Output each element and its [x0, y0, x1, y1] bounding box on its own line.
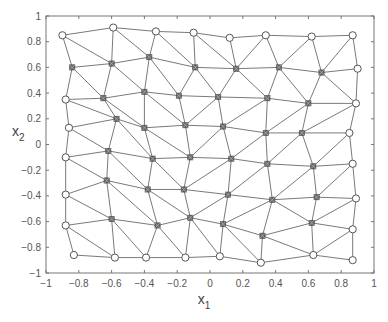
boundary-node-marker — [346, 129, 353, 136]
y-tick-label: −0.2 — [21, 165, 41, 176]
boundary-node-marker — [142, 254, 149, 261]
interior-node-marker — [106, 148, 111, 153]
interior-node-marker — [145, 187, 150, 192]
interior-node-marker — [234, 66, 239, 71]
x-tick-label: 1 — [371, 278, 377, 289]
interior-node-marker — [216, 94, 221, 99]
interior-node-marker — [142, 125, 147, 130]
boundary-node-marker — [349, 32, 356, 39]
boundary-node-marker — [352, 100, 359, 107]
interior-node-marker — [265, 161, 270, 166]
boundary-node-marker — [190, 29, 197, 36]
interior-node-marker — [265, 96, 270, 101]
boundary-node-marker — [262, 32, 269, 39]
y-tick-label: 0 — [35, 139, 41, 150]
interior-node-marker — [299, 130, 304, 135]
interior-node-marker — [176, 93, 181, 98]
interior-node-marker — [319, 70, 324, 75]
y-tick-label: −0.6 — [21, 216, 41, 227]
interior-node-marker — [260, 233, 265, 238]
interior-node-marker — [188, 155, 193, 160]
interior-node-marker — [70, 65, 75, 70]
boundary-node-marker — [62, 154, 69, 161]
interior-node-marker — [150, 156, 155, 161]
interior-node-marker — [263, 130, 268, 135]
interior-node-marker — [183, 123, 188, 128]
boundary-node-marker — [349, 257, 356, 264]
boundary-node-marker — [308, 33, 315, 40]
interior-node-marker — [104, 178, 109, 183]
x-tick-label: 0.8 — [334, 278, 348, 289]
y-tick-label: −1 — [30, 268, 42, 279]
boundary-node-marker — [152, 28, 159, 35]
boundary-node-marker — [182, 254, 189, 261]
interior-node-marker — [276, 65, 281, 70]
x-tick-label: 0.2 — [236, 278, 250, 289]
y-tick-label: 0.4 — [27, 88, 41, 99]
x-tick-label: 0 — [207, 278, 213, 289]
interior-node-marker — [114, 116, 119, 121]
boundary-node-marker — [59, 32, 66, 39]
boundary-node-marker — [65, 124, 72, 131]
interior-node-marker — [221, 222, 226, 227]
boundary-node-marker — [110, 24, 117, 31]
y-tick-label: 0.2 — [27, 113, 41, 124]
interior-node-marker — [314, 195, 319, 200]
x-axis-label-sub: 1 — [205, 300, 211, 311]
interior-node-marker — [225, 192, 230, 197]
interior-node-marker — [155, 223, 160, 228]
x-tick-label: −0.6 — [102, 278, 122, 289]
y-axis-label-sub: 2 — [19, 132, 25, 143]
y-axis-label-main: x — [12, 123, 19, 139]
interior-node-marker — [309, 220, 314, 225]
interior-node-marker — [109, 216, 114, 221]
x-tick-label: −0.8 — [69, 278, 89, 289]
boundary-node-marker — [352, 195, 359, 202]
interior-node-marker — [109, 61, 114, 66]
boundary-node-marker — [216, 253, 223, 260]
x-axis-label-main: x — [198, 291, 205, 307]
interior-node-marker — [147, 55, 152, 60]
interior-node-marker — [306, 101, 311, 106]
x-tick-label: −0.2 — [167, 278, 187, 289]
y-tick-label: 0.6 — [27, 62, 41, 73]
x-tick-label: 0.4 — [269, 278, 283, 289]
interior-node-marker — [270, 197, 275, 202]
boundary-node-marker — [257, 259, 264, 266]
boundary-node-marker — [310, 251, 317, 258]
interior-node-marker — [181, 187, 186, 192]
boundary-node-marker — [349, 160, 356, 167]
interior-node-marker — [142, 89, 147, 94]
interior-node-marker — [229, 156, 234, 161]
boundary-node-marker — [111, 254, 118, 261]
interior-node-marker — [193, 65, 198, 70]
y-tick-label: 1 — [35, 11, 41, 22]
boundary-node-marker — [70, 251, 77, 258]
boundary-node-marker — [226, 34, 233, 41]
x-tick-label: −0.4 — [135, 278, 155, 289]
interior-node-marker — [221, 124, 226, 129]
x-tick-label: 0.6 — [301, 278, 315, 289]
interior-node-marker — [311, 164, 316, 169]
boundary-node-marker — [349, 226, 356, 233]
boundary-node-marker — [62, 96, 69, 103]
boundary-node-marker — [62, 222, 69, 229]
interior-node-marker — [188, 215, 193, 220]
y-tick-label: −0.8 — [21, 242, 41, 253]
boundary-node-marker — [354, 65, 361, 72]
y-tick-label: 0.8 — [27, 36, 41, 47]
x-tick-label: −1 — [40, 278, 52, 289]
boundary-node-marker — [62, 191, 69, 198]
interior-node-marker — [101, 96, 106, 101]
y-tick-label: −0.4 — [21, 190, 41, 201]
mesh-chart: −1−0.8−0.6−0.4−0.200.20.40.60.81 −1−0.8−… — [0, 0, 388, 322]
